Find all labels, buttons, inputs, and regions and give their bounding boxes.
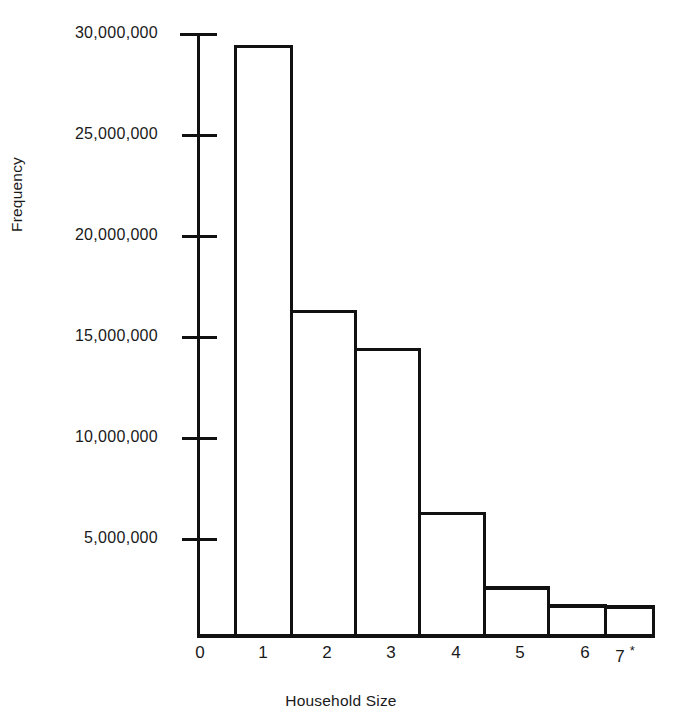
bar-3	[356, 349, 420, 636]
histogram-chart: Frequency 30,000,000 25,000,000 20,000,0…	[0, 0, 682, 728]
x-tick-label-7-text: 7	[615, 647, 624, 666]
x-tick-label-3: 3	[386, 643, 395, 663]
x-axis-title: Household Size	[0, 692, 682, 710]
x-tick-label-5: 5	[515, 643, 524, 663]
chart-svg	[0, 0, 682, 728]
bar-series	[236, 47, 654, 637]
bar-2	[292, 311, 356, 636]
plot-area: 0 1 2 3 4 5 6 7*	[0, 0, 682, 728]
x-tick-label-0: 0	[195, 643, 204, 663]
x-tick-label-1: 1	[258, 643, 267, 663]
x-tick-label-4: 4	[451, 643, 460, 663]
x-tick-label-7: 7*	[615, 643, 635, 667]
bar-7	[606, 607, 654, 636]
bar-1	[236, 47, 292, 637]
x-tick-label-2: 2	[322, 643, 331, 663]
bar-5	[485, 588, 549, 636]
bar-4	[420, 514, 485, 636]
x-tick-label-6: 6	[580, 643, 589, 663]
bar-6	[549, 606, 606, 636]
footnote-asterisk: *	[630, 643, 635, 658]
